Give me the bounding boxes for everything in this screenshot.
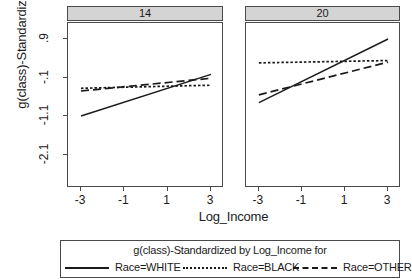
panel-series-20 <box>246 23 400 187</box>
y-axis-tick-label: .9 <box>37 25 51 51</box>
x-axis-tick-label: -3 <box>68 193 92 207</box>
legend-key-solid <box>65 267 109 272</box>
x-axis-tick-mark <box>344 187 345 191</box>
series-line-race-black <box>259 61 388 63</box>
panel-plot-area-14 <box>67 22 223 187</box>
x-axis-tick-mark <box>210 187 211 191</box>
x-axis-tick-mark <box>123 187 124 191</box>
series-line-race-other <box>81 78 211 91</box>
y-axis-tick-label: -2.1 <box>37 141 51 167</box>
y-axis-title: g(class)-Standardized <box>14 0 29 133</box>
x-axis-tick-label: 1 <box>155 193 179 207</box>
y-axis-tick-label: -.1 <box>37 64 51 90</box>
panel-header-20: 20 <box>245 6 400 21</box>
x-axis-tick-mark <box>80 187 81 191</box>
x-axis-tick-label: -1 <box>289 193 313 207</box>
x-axis-tick-mark <box>301 187 302 191</box>
legend-label: Race=BLACK <box>233 261 299 273</box>
legend-title: g(class)-Standardized by Log_Income for <box>61 244 399 256</box>
x-axis-tick-mark <box>387 187 388 191</box>
x-axis-tick-label: -3 <box>246 193 270 207</box>
x-axis-tick-label: -1 <box>111 193 135 207</box>
x-axis-title: Log_Income <box>144 209 324 224</box>
legend-label: Race=WHITE <box>115 261 181 273</box>
legend-label: Race=OTHER <box>343 261 412 273</box>
x-axis-tick-label: 3 <box>198 193 222 207</box>
panel-series-14 <box>68 23 223 187</box>
series-line-race-white <box>259 39 388 103</box>
x-axis-tick-mark <box>258 187 259 191</box>
legend-key-dotted <box>183 267 227 272</box>
y-axis-tick-label: -1.1 <box>37 102 51 128</box>
series-line-race-other <box>259 62 388 95</box>
x-axis-tick-label: 1 <box>332 193 356 207</box>
series-line-race-black <box>81 85 211 88</box>
legend-key-dashed <box>293 267 337 272</box>
panel-header-14: 14 <box>67 6 223 21</box>
panel-plot-area-20 <box>245 22 400 187</box>
x-axis-tick-label: 3 <box>375 193 399 207</box>
legend: g(class)-Standardized by Log_Income for … <box>60 240 400 278</box>
x-axis-tick-mark <box>167 187 168 191</box>
